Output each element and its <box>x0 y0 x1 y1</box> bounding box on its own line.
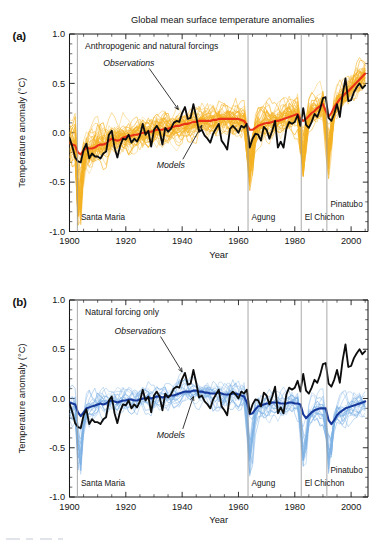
x-tick-label-1980: 1980 <box>285 236 305 246</box>
volcano-label-el-chichon-a: El Chichon <box>305 213 345 222</box>
panel-caption-a: Anthropogenic and natural forcings <box>85 41 218 51</box>
x-tick-label-2000: 2000 <box>341 502 361 512</box>
y-tick-label-0.5: 0.5 <box>52 344 65 354</box>
y-tick-label-0.0: 0.0 <box>52 128 65 138</box>
x-tick-label-1940: 1940 <box>172 502 192 512</box>
x-tick-label-1900: 1900 <box>59 502 79 512</box>
panel-caption-b: Natural forcing only <box>85 307 160 317</box>
volcano-label-agung-b: Agung <box>252 479 276 488</box>
figure-title: Global mean surface temperature anomalie… <box>131 15 315 25</box>
observations-annotation-a: Observations <box>103 58 155 68</box>
y-tick-label-1.0: 1.0 <box>52 295 65 305</box>
models-annotation-b: Models <box>157 430 186 440</box>
y-axis-title-a: Temperature anomaly (°C) <box>16 78 27 188</box>
observations-arrow-line-b <box>161 337 183 372</box>
volcano-label-pinatubo-b: Pinatubo <box>330 466 363 475</box>
panel-b-plotarea <box>70 344 366 476</box>
y-axis-title-b: Temperature anomaly (°C) <box>16 343 27 453</box>
volcano-label-santa-maria-b: Santa Maria <box>81 479 126 488</box>
y-tick-label-1.0: 1.0 <box>52 29 65 39</box>
x-tick-label-1920: 1920 <box>116 502 136 512</box>
figure-title-group: Global mean surface temperature anomalie… <box>131 15 315 25</box>
x-tick-label-1940: 1940 <box>172 236 192 246</box>
volcano-label-pinatubo-a: Pinatubo <box>330 200 363 209</box>
x-tick-label-1960: 1960 <box>228 236 248 246</box>
observations-annotation-b: Observations <box>115 326 167 336</box>
panel-a-annotations: (a)Temperature anomaly (°C)YearAnthropog… <box>13 30 364 260</box>
models-arrow-line-b <box>183 397 194 429</box>
x-tick-label-1980: 1980 <box>285 502 305 512</box>
panel-label-b: (b) <box>13 296 27 308</box>
x-tick-label-1960: 1960 <box>228 502 248 512</box>
x-tick-label-1920: 1920 <box>116 236 136 246</box>
panel-label-a: (a) <box>13 30 27 42</box>
y-tick-label-0.5: 0.5 <box>52 79 65 89</box>
x-tick-label-1900: 1900 <box>59 236 79 246</box>
x-axis-title-a: Year <box>209 249 228 260</box>
figure-svg: -1.0-0.50.00.51.019001920194019601980200… <box>0 0 389 546</box>
y-tick-label--0.5: -0.5 <box>49 177 65 187</box>
x-axis-title-b: Year <box>209 514 228 525</box>
x-tick-label-2000: 2000 <box>341 236 361 246</box>
y-tick-label-0.0: 0.0 <box>52 394 65 404</box>
models-annotation-a: Models <box>157 160 186 170</box>
observations-arrow-line-a <box>149 69 178 110</box>
climate-attribution-figure: -1.0-0.50.00.51.019001920194019601980200… <box>0 0 389 546</box>
panel-a-plotarea <box>70 58 366 226</box>
volcano-label-agung-a: Agung <box>252 213 276 222</box>
volcano-label-el-chichon-b: El Chichon <box>305 479 345 488</box>
volcano-label-santa-maria-a: Santa Maria <box>81 213 126 222</box>
y-tick-label--0.5: -0.5 <box>49 443 65 453</box>
